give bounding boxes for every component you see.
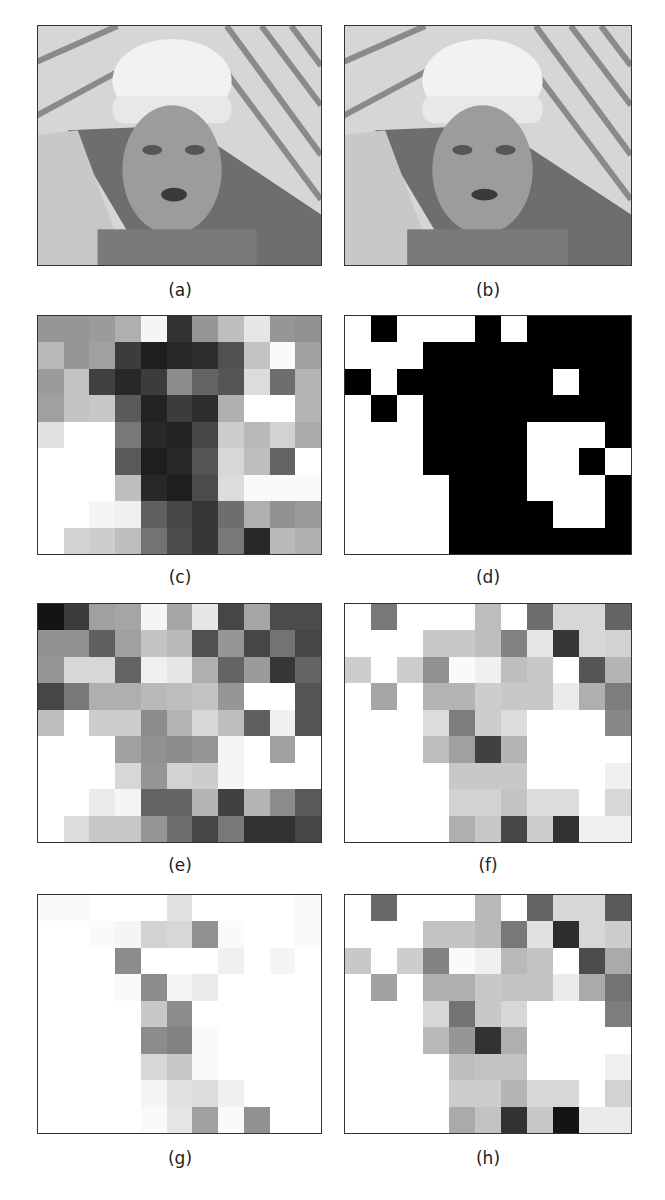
grid-cell — [218, 604, 244, 630]
grid-cell — [89, 816, 115, 842]
grid-cell — [167, 657, 193, 683]
grid-cell — [397, 395, 423, 421]
panel-e-grid — [37, 603, 322, 843]
grid-cell — [553, 948, 579, 974]
grid-cell — [64, 1001, 90, 1027]
grid-cell — [244, 895, 270, 921]
grid-cell — [218, 1001, 244, 1027]
grid-cell — [449, 948, 475, 974]
grid-cell — [244, 528, 270, 554]
grid-cell — [115, 1107, 141, 1133]
grid-cell — [371, 475, 397, 501]
grid-cell — [89, 895, 115, 921]
grid-cell — [295, 604, 321, 630]
grid-cell — [527, 1054, 553, 1080]
grid-cell — [192, 921, 218, 947]
grid-cell — [579, 1107, 605, 1133]
grid-cell — [605, 528, 631, 554]
grid-cell — [579, 816, 605, 842]
grid-cell — [579, 528, 605, 554]
grid-cell — [270, 604, 296, 630]
grid-cell — [218, 895, 244, 921]
grid-cell — [38, 475, 64, 501]
grid-cell — [345, 369, 371, 395]
grid-cell — [270, 528, 296, 554]
grid-cell — [141, 342, 167, 368]
grid-cell — [295, 501, 321, 527]
grid-cell — [295, 895, 321, 921]
grid-cell — [115, 1027, 141, 1053]
grid-cell — [449, 710, 475, 736]
grid-cell — [605, 710, 631, 736]
grid-cell — [501, 921, 527, 947]
grid-cell — [192, 1107, 218, 1133]
grid-cell — [295, 1107, 321, 1133]
grid-cell — [423, 921, 449, 947]
grid-cell — [89, 528, 115, 554]
grid-cell — [423, 1027, 449, 1053]
grid-cell — [270, 789, 296, 815]
grid-cell — [192, 816, 218, 842]
grid-cell — [141, 895, 167, 921]
grid-cell — [89, 501, 115, 527]
grid-cell — [270, 395, 296, 421]
grid-cell — [295, 395, 321, 421]
grid-cell — [527, 342, 553, 368]
grid-cell — [579, 1027, 605, 1053]
grid-cell — [295, 316, 321, 342]
grid-cell — [115, 528, 141, 554]
grid-cell — [527, 789, 553, 815]
grid-cell — [218, 1107, 244, 1133]
grid-cell — [270, 1080, 296, 1106]
grid-cell — [192, 763, 218, 789]
grid-cell — [115, 1001, 141, 1027]
grid-cell — [579, 683, 605, 709]
grid-cell — [553, 763, 579, 789]
grid-cell — [449, 422, 475, 448]
grid-cell — [115, 395, 141, 421]
grid-cell — [244, 448, 270, 474]
grid-cell — [244, 816, 270, 842]
grid-cell — [64, 316, 90, 342]
grid-cell — [423, 895, 449, 921]
grid-cell — [527, 316, 553, 342]
grid-cell — [605, 683, 631, 709]
grid-cell — [244, 475, 270, 501]
grid-cell — [475, 395, 501, 421]
grid-cell — [64, 683, 90, 709]
grid-cell — [89, 710, 115, 736]
grid-cell — [371, 395, 397, 421]
grid-cell — [295, 816, 321, 842]
grid-cell — [371, 974, 397, 1000]
grid-cell — [579, 1080, 605, 1106]
grid-cell — [605, 789, 631, 815]
panel-d-grid — [344, 315, 632, 555]
grid-cell — [192, 948, 218, 974]
grid-cell — [345, 1054, 371, 1080]
grid-cell — [115, 342, 141, 368]
grid-cell — [605, 657, 631, 683]
grid-cell — [64, 475, 90, 501]
grid-cell — [192, 974, 218, 1000]
grid-cell — [449, 501, 475, 527]
grid-cell — [579, 395, 605, 421]
grid-cell — [605, 921, 631, 947]
grid-cell — [449, 895, 475, 921]
grid-cell — [579, 342, 605, 368]
grid-cell — [270, 921, 296, 947]
grid-cell — [141, 1054, 167, 1080]
grid-cell — [64, 816, 90, 842]
grid-cell — [64, 630, 90, 656]
grid-cell — [449, 1107, 475, 1133]
grid-cell — [553, 448, 579, 474]
grid-cell — [295, 683, 321, 709]
grid-cell — [89, 369, 115, 395]
grid-cell — [397, 657, 423, 683]
grid-cell — [141, 763, 167, 789]
grid-cell — [141, 630, 167, 656]
grid-cell — [192, 501, 218, 527]
grid-cell — [295, 369, 321, 395]
grid-cell — [167, 316, 193, 342]
grid-cell — [89, 683, 115, 709]
grid-cell — [192, 736, 218, 762]
